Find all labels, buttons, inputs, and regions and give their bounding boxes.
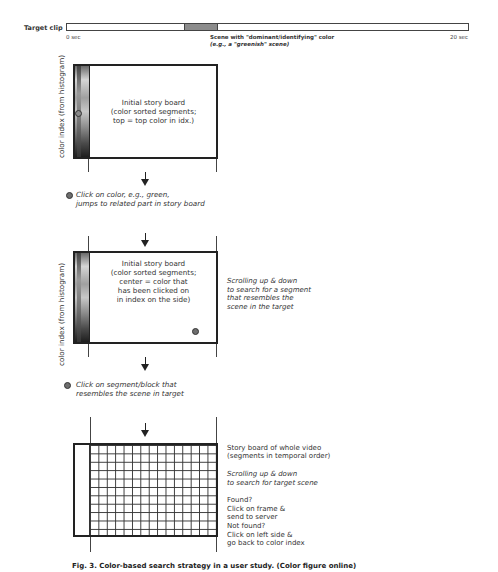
target-clip-label: Target clip xyxy=(24,24,63,32)
board1-right-guide xyxy=(216,158,217,172)
color-marker-dot[interactable] xyxy=(75,110,82,117)
initial-story-board-top: Initial story board (color sorted segmen… xyxy=(73,64,218,159)
arrow-down-icon xyxy=(141,179,149,186)
timeline-start-label: 0 sec xyxy=(66,34,81,40)
timeline-end-label: 20 sec xyxy=(450,34,468,40)
board3-decision-note: Found? Click on frame & send to server N… xyxy=(227,496,330,548)
board2-left-guide xyxy=(88,343,89,357)
board3-left-guide xyxy=(90,537,91,552)
board1-left-guide xyxy=(88,158,89,172)
board3-side-note: Story board of whole video (segments in … xyxy=(227,435,330,557)
temporal-story-board xyxy=(73,443,218,537)
board2-side-note: Scrolling up & down to search for a segm… xyxy=(227,277,311,312)
board2-right-guide xyxy=(216,343,217,357)
board2-right-guide-top xyxy=(216,236,217,251)
frame-grid[interactable] xyxy=(89,445,216,535)
board3-description: Story board of whole video (segments in … xyxy=(227,444,330,461)
arrow-down-icon xyxy=(141,240,149,247)
scene-annotation-line2: (e.g., a "greenish" scene) xyxy=(210,41,334,48)
arrow-down-icon xyxy=(141,430,149,437)
click-color-dot-icon xyxy=(66,192,73,199)
board3-left-guide-top xyxy=(90,417,91,443)
board2-left-guide-top xyxy=(88,236,89,251)
click-segment-dot-icon xyxy=(64,382,71,389)
color-index-axis-label-1: color index (from histogram) xyxy=(57,55,66,158)
initial-story-board-centered: Initial story board (color sorted segmen… xyxy=(73,251,218,344)
board3-right-guide-top xyxy=(216,417,217,443)
clicked-segment-dot[interactable] xyxy=(192,328,199,335)
target-clip-timeline xyxy=(66,23,469,31)
action1-instruction: Click on color, e.g., green, jumps to re… xyxy=(76,190,205,208)
action2-instruction: Click on segment/block that resembles th… xyxy=(76,380,184,398)
figure-caption: Fig. 3. Color-based search strategy in a… xyxy=(72,562,356,570)
board3-scroll-note: Scrolling up & down to search for target… xyxy=(227,470,330,487)
arrow-down-icon xyxy=(141,364,149,371)
board2-description: Initial story board (color sorted segmen… xyxy=(91,259,216,304)
scene-annotation: Scene with "dominant/identifying" color … xyxy=(210,34,334,48)
color-index-axis-label-2: color index (from histogram) xyxy=(57,263,66,366)
board1-description: Initial story board (color sorted segmen… xyxy=(91,98,216,125)
back-to-color-index-area[interactable] xyxy=(75,445,89,535)
scene-annotation-line1: Scene with "dominant/identifying" color xyxy=(210,34,334,41)
color-index-strip[interactable] xyxy=(75,253,90,342)
dominant-color-scene-segment xyxy=(184,24,218,30)
board3-right-guide xyxy=(216,537,217,552)
